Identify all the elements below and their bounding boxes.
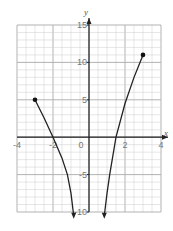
svg-text:-10: -10 [74, 207, 87, 217]
svg-text:15: 15 [77, 20, 87, 30]
svg-text:2: 2 [122, 140, 127, 150]
svg-text:10: 10 [77, 57, 87, 67]
svg-text:4: 4 [158, 140, 163, 150]
x-axis-label: x [163, 128, 168, 138]
svg-text:-4: -4 [13, 140, 21, 150]
tick-labels: -4-224015105-5-10 [13, 20, 164, 217]
y-axis-label: y [83, 7, 88, 17]
svg-text:0: 0 [78, 140, 83, 150]
svg-text:5: 5 [82, 95, 87, 105]
function-graph: -4-224015105-5-10 x y [0, 0, 173, 231]
svg-text:-5: -5 [79, 170, 87, 180]
